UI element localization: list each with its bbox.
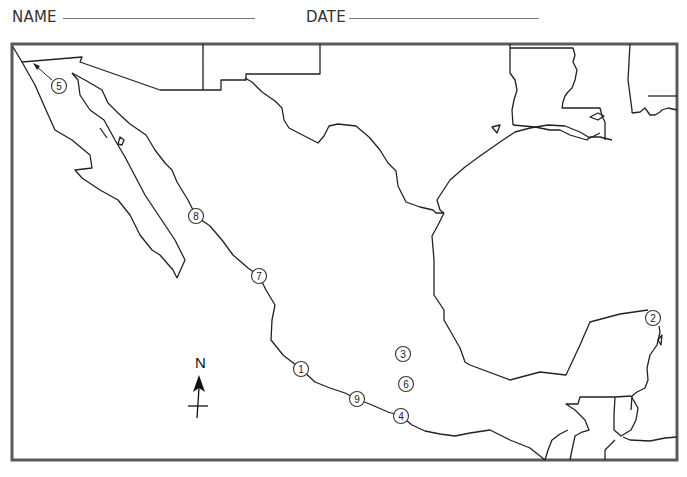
- pacific-coast: [196, 216, 545, 460]
- location-markers: 123456789: [52, 79, 661, 424]
- belize-border: [614, 396, 638, 436]
- baja-west-coast: [22, 62, 177, 278]
- location-marker-6[interactable]: 6: [399, 377, 414, 392]
- border-nm: [203, 44, 320, 90]
- location-marker-1[interactable]: 1: [294, 362, 309, 377]
- location-marker-2[interactable]: 2: [646, 311, 661, 326]
- location-marker-5[interactable]: 5: [52, 79, 67, 94]
- marker-label: 8: [193, 211, 199, 222]
- gulf-coast-texas: [437, 125, 600, 213]
- marker-label: 6: [403, 379, 409, 390]
- marker-label: 3: [400, 349, 406, 360]
- alabama-border: [628, 44, 632, 113]
- marker-label: 1: [298, 364, 304, 375]
- outline-map: N 123456789: [0, 0, 687, 477]
- marker-label: 4: [398, 411, 404, 422]
- guatemala-pacific: [545, 430, 568, 460]
- honduras-border: [605, 440, 615, 460]
- honduras-coast: [623, 437, 677, 441]
- north-label: N: [195, 354, 206, 371]
- marker-5-arrow: [33, 63, 52, 80]
- florida-panhandle: [632, 108, 677, 115]
- rio-grande: [245, 78, 444, 213]
- border-west: [13, 44, 203, 90]
- louisiana-west-border: [510, 44, 517, 125]
- location-marker-4[interactable]: 4: [394, 409, 409, 424]
- louisiana-coast: [513, 125, 612, 140]
- location-marker-9[interactable]: 9: [350, 392, 365, 407]
- location-marker-7[interactable]: 7: [252, 269, 267, 284]
- location-marker-8[interactable]: 8: [189, 209, 204, 224]
- north-arrow-icon: N: [188, 354, 208, 418]
- baja-east-coast: [72, 73, 185, 278]
- island-tiburon: [118, 137, 124, 145]
- yucatan-east-coast: [631, 326, 660, 410]
- marker-label: 2: [650, 313, 656, 324]
- location-marker-3[interactable]: 3: [396, 347, 411, 362]
- coastlines-and-borders: [13, 44, 677, 460]
- island-texas: [492, 125, 500, 133]
- island-angel: [100, 128, 107, 138]
- marker-label: 7: [256, 271, 262, 282]
- guatemala-border: [566, 396, 631, 460]
- marker-label: 5: [56, 81, 62, 92]
- gulf-coast-mexico: [432, 213, 648, 380]
- marker-label: 9: [354, 394, 360, 405]
- sonora-coast: [72, 73, 196, 216]
